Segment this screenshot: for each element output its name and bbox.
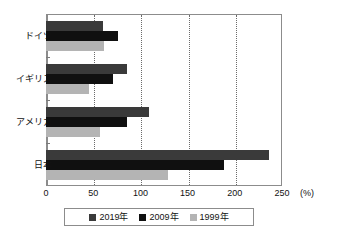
xtick-label-200: 200 bbox=[227, 188, 242, 198]
category-label-2: アメリカ bbox=[0, 117, 52, 127]
category-label-1: イギリス bbox=[0, 74, 52, 84]
bar-2019-2[interactable] bbox=[46, 107, 149, 117]
bar-group-2 bbox=[46, 107, 282, 137]
bar-1999-0[interactable] bbox=[46, 41, 104, 51]
chart-legend: 2019年 2009年 1999年 bbox=[64, 208, 254, 226]
bar-group-3 bbox=[46, 150, 282, 180]
bar-2019-3[interactable] bbox=[46, 150, 269, 160]
category-tick-0 bbox=[46, 57, 50, 58]
xtick-label-150: 150 bbox=[180, 188, 195, 198]
bar-2009-2[interactable] bbox=[46, 117, 127, 127]
xtick-label-0: 0 bbox=[43, 188, 48, 198]
bar-group-1 bbox=[46, 64, 282, 94]
bar-2009-3[interactable] bbox=[46, 160, 224, 170]
bar-chart-figure: 2019年 2009年 1999年 ドイツイギリスアメリカ日本050100150… bbox=[0, 0, 339, 239]
category-tick-1 bbox=[46, 100, 50, 101]
xtick-label-250: 250 bbox=[274, 188, 289, 198]
bar-2019-1[interactable] bbox=[46, 64, 127, 74]
legend-item-2009[interactable]: 2009年 bbox=[139, 212, 178, 222]
legend-item-2019[interactable]: 2019年 bbox=[89, 212, 128, 222]
category-tick-2 bbox=[46, 143, 50, 144]
legend-label-2009: 2009年 bbox=[149, 212, 178, 222]
bar-1999-2[interactable] bbox=[46, 127, 100, 137]
bar-group-0 bbox=[46, 21, 282, 51]
bar-1999-1[interactable] bbox=[46, 84, 89, 94]
bar-2009-0[interactable] bbox=[46, 31, 118, 41]
legend-swatch-1999-icon bbox=[190, 214, 197, 221]
xtick-label-50: 50 bbox=[88, 188, 98, 198]
bar-2019-0[interactable] bbox=[46, 21, 103, 31]
legend-swatch-2019-icon bbox=[89, 214, 96, 221]
category-label-3: 日本 bbox=[0, 160, 52, 170]
xtick-label-100: 100 bbox=[133, 188, 148, 198]
legend-label-1999: 1999年 bbox=[200, 212, 229, 222]
legend-label-2019: 2019年 bbox=[99, 212, 128, 222]
x-axis-unit-label: (%) bbox=[300, 188, 314, 198]
bar-1999-3[interactable] bbox=[46, 170, 168, 180]
legend-swatch-2009-icon bbox=[139, 214, 146, 221]
category-label-0: ドイツ bbox=[0, 31, 52, 41]
legend-item-1999[interactable]: 1999年 bbox=[190, 212, 229, 222]
bar-2009-1[interactable] bbox=[46, 74, 113, 84]
